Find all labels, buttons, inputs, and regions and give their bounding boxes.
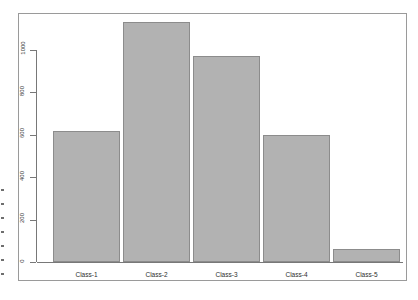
y-tick-mark-0 [30,262,36,263]
y-tick-mark-600 [30,135,36,136]
bar-class-3[interactable] [193,56,260,262]
x-axis-line [37,262,403,263]
bar-class-5[interactable] [333,249,400,262]
y-tick-label-200: 200 [19,209,25,227]
y-tick-mark-400 [30,177,36,178]
y-tick-mark-200 [30,220,36,221]
x-tick-label-class-3: Class-3 [193,271,260,278]
x-tick-label-class-1: Class-1 [53,271,120,278]
plot-device: 0 200 400 600 800 1000 Class-1 Class-2 C… [0,0,418,300]
left-margin-artifact-marks [0,185,6,285]
bar-class-4[interactable] [263,135,330,262]
y-tick-label-0: 0 [19,253,25,269]
y-tick-mark-1000 [30,50,36,51]
bar-class-2[interactable] [123,22,190,262]
y-tick-label-1000: 1000 [20,38,26,59]
x-tick-label-class-2: Class-2 [123,271,190,278]
y-tick-label-600: 600 [19,124,25,142]
x-tick-label-class-4: Class-4 [263,271,330,278]
y-tick-mark-800 [30,92,36,93]
y-axis-line [36,50,37,262]
y-tick-label-400: 400 [19,167,25,185]
bar-class-1[interactable] [53,131,120,262]
x-tick-label-class-5: Class-5 [333,271,400,278]
y-tick-label-800: 800 [19,82,25,100]
